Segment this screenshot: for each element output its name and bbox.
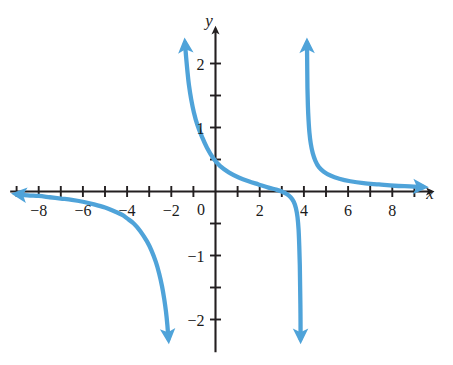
x-tick-label: 8 [388, 202, 396, 219]
y-tick-label: 2 [197, 56, 205, 73]
y-axis-label: y [203, 11, 213, 30]
x-axis-label: x [425, 184, 434, 203]
graph-canvas: −8−6−4−2246821−1−2 x y 0 [0, 0, 453, 365]
rational-function-figure: −8−6−4−2246821−1−2 x y 0 [0, 0, 453, 365]
x-tick-label: 2 [256, 202, 264, 219]
curve-right-branch [307, 43, 423, 187]
origin-label: 0 [197, 201, 205, 218]
y-tick-label: −1 [187, 248, 204, 265]
y-tick-label: −2 [187, 312, 204, 329]
x-tick-label: −8 [30, 202, 47, 219]
x-tick-label: −2 [163, 202, 180, 219]
x-tick-label: −6 [74, 202, 91, 219]
axes-group [10, 29, 431, 353]
x-tick-label: −4 [119, 202, 136, 219]
y-tick-label: 1 [197, 120, 205, 137]
x-tick-label: 4 [300, 202, 308, 219]
x-tick-label: 6 [344, 202, 352, 219]
